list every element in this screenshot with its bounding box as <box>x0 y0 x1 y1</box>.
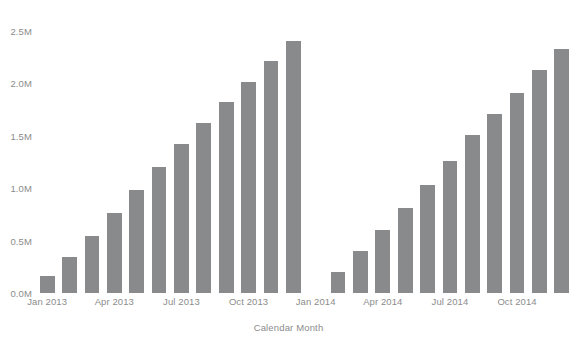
axis-baseline <box>36 293 573 294</box>
x-axis-tick-label: Apr 2014 <box>363 296 402 307</box>
x-axis-tick-label: Jul 2014 <box>432 296 469 307</box>
x-axis-tick-label: Oct 2014 <box>497 296 536 307</box>
x-axis-tick-label: Jan 2014 <box>296 296 336 307</box>
x-axis-tick-label: Apr 2013 <box>95 296 134 307</box>
bar-chart: 0.0M0.5M1.0M1.5M2.0M2.5M Jan 2013Apr 201… <box>0 0 577 345</box>
x-axis-tick-label: Jul 2013 <box>163 296 200 307</box>
x-axis-title: Calendar Month <box>0 322 577 333</box>
x-axis-tick-label: Oct 2013 <box>229 296 268 307</box>
x-axis-tick-label: Jan 2013 <box>27 296 67 307</box>
